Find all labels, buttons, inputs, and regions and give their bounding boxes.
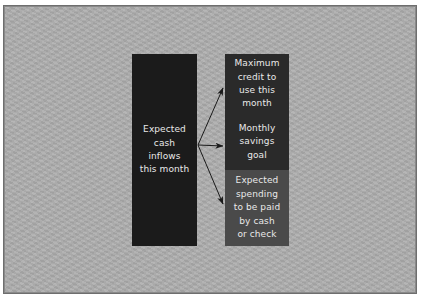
target-box-label: Maximum credit to use this month	[234, 57, 279, 111]
target-box-label: Monthly savings goal	[239, 122, 276, 162]
target-box-label: Expected spending to be paid by cash or …	[234, 174, 280, 241]
target-box-max-credit: Maximum credit to use this month	[225, 54, 289, 114]
source-box-cash-inflows: Expected cash inflows this month	[132, 54, 197, 246]
target-stack: Maximum credit to use this month Monthly…	[225, 54, 289, 246]
target-box-cash-spending: Expected spending to be paid by cash or …	[225, 170, 289, 246]
diagram-frame	[3, 5, 417, 294]
target-box-savings-goal: Monthly savings goal	[225, 114, 289, 170]
source-box-label: Expected cash inflows this month	[140, 123, 190, 177]
